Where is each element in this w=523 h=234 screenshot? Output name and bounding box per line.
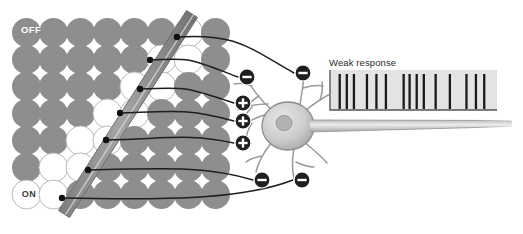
photoreceptor-cell — [147, 99, 176, 128]
photoreceptor-cell — [120, 18, 149, 47]
spike — [449, 74, 451, 109]
photoreceptor-cell — [201, 153, 230, 182]
synapse-badge-minus[interactable] — [294, 172, 310, 188]
photoreceptor-cell — [12, 126, 41, 155]
synapse-badge-minus[interactable] — [254, 172, 270, 188]
spike — [408, 74, 410, 109]
synapse-badge-minus[interactable] — [239, 69, 255, 85]
synapse-source-dot — [59, 195, 65, 201]
spike — [403, 74, 405, 109]
synapse-badge-plus[interactable] — [235, 95, 251, 111]
photoreceptor-cell — [66, 72, 95, 101]
badge-bar-h — [242, 76, 251, 78]
synapse-badge-minus[interactable] — [295, 65, 311, 81]
photoreceptor-cell — [39, 18, 68, 47]
photoreceptor-cell — [120, 45, 149, 74]
spike — [375, 74, 377, 109]
photoreceptor-cell — [201, 99, 230, 128]
synapse-badge-plus[interactable] — [235, 113, 251, 129]
photoreceptor-cell — [93, 45, 122, 74]
badge-bar-v — [242, 116, 244, 125]
badge-bar-v — [242, 138, 244, 147]
spike — [346, 74, 348, 109]
photoreceptor-cell — [93, 18, 122, 47]
diagram-svg — [0, 0, 523, 234]
photoreceptor-cell — [66, 45, 95, 74]
photoreceptor-cell — [12, 18, 41, 47]
synapse-source-dot — [85, 167, 91, 173]
spike — [483, 74, 485, 109]
photoreceptor-cell — [12, 45, 41, 74]
photoreceptor-cell — [39, 99, 68, 128]
photoreceptor-cell — [39, 153, 68, 182]
spike — [423, 74, 425, 109]
spike — [339, 74, 341, 109]
photoreceptor-cell — [147, 180, 176, 209]
spike — [475, 74, 477, 109]
photoreceptor-cell — [201, 126, 230, 155]
photoreceptor-cell — [12, 72, 41, 101]
photoreceptor-cell — [174, 180, 203, 209]
synapse-source-dot — [147, 57, 153, 63]
badge-bar-v — [242, 98, 244, 107]
axon — [310, 120, 512, 132]
badge-bar-h — [257, 179, 266, 181]
synapse-source-dot — [174, 34, 180, 40]
synapse-source-dot — [117, 110, 123, 116]
photoreceptor-cell — [93, 72, 122, 101]
spike — [416, 74, 418, 109]
figure-canvas: OFF ON Weak response — [0, 0, 523, 234]
photoreceptor-cell — [201, 45, 230, 74]
photoreceptor-cell — [66, 18, 95, 47]
spike — [435, 74, 437, 109]
photoreceptor-cell — [39, 126, 68, 155]
photoreceptor-cell — [174, 153, 203, 182]
photoreceptor-cell — [174, 126, 203, 155]
photoreceptor-cell — [12, 99, 41, 128]
photoreceptor-cell — [120, 180, 149, 209]
photoreceptor-cell — [93, 180, 122, 209]
synapse-badge-plus[interactable] — [235, 135, 251, 151]
response-panel — [329, 70, 497, 110]
photoreceptor-cell — [12, 180, 41, 209]
synapse-source-dot — [103, 137, 109, 143]
badge-bar-h — [298, 72, 307, 74]
photoreceptor-cell — [12, 153, 41, 182]
photoreceptor-cell — [39, 45, 68, 74]
photoreceptor-cell — [174, 72, 203, 101]
spike — [366, 74, 368, 109]
photoreceptor-cell — [66, 126, 95, 155]
spike — [353, 74, 355, 109]
photoreceptor-cell — [39, 72, 68, 101]
photoreceptor-cell — [120, 153, 149, 182]
spike — [385, 74, 387, 109]
photoreceptor-cell — [147, 126, 176, 155]
nucleus — [276, 116, 292, 131]
synapse-source-dot — [137, 86, 143, 92]
badge-bar-h — [297, 179, 306, 181]
photoreceptor-cell — [201, 18, 230, 47]
photoreceptor-cell — [147, 153, 176, 182]
photoreceptor-cell — [66, 99, 95, 128]
spike — [465, 74, 467, 109]
